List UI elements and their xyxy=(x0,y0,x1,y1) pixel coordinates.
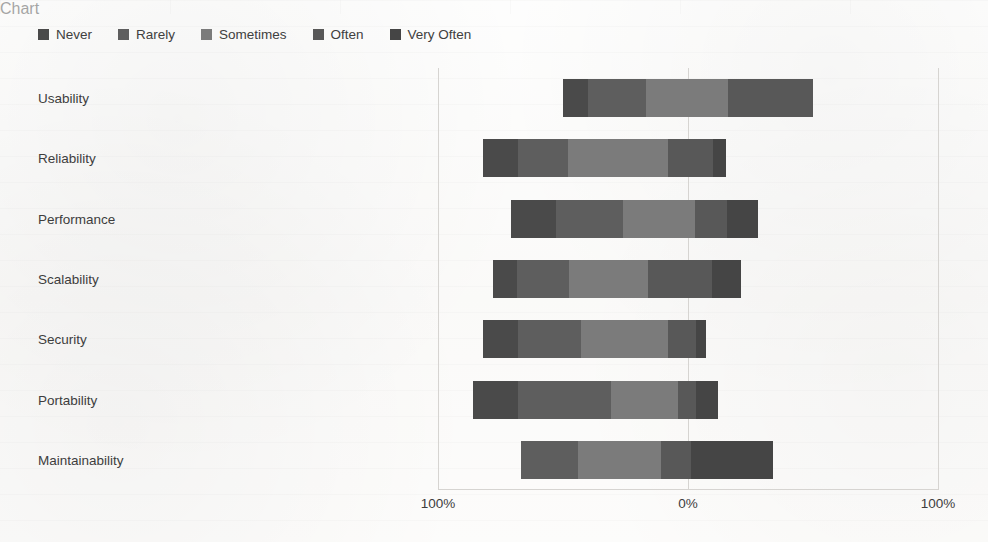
stacked-bar-portability[interactable] xyxy=(473,381,721,419)
legend-item-label: Sometimes xyxy=(219,27,287,42)
legend-swatch-icon xyxy=(38,29,49,40)
category-label-maintainability: Maintainability xyxy=(38,452,124,467)
stacked-bar-maintainability[interactable] xyxy=(521,441,774,479)
gridline-x-2 xyxy=(938,68,939,490)
category-label-security: Security xyxy=(38,332,87,347)
bar-row xyxy=(438,320,938,358)
bar-segment-often[interactable] xyxy=(668,320,696,358)
stacked-bar-performance[interactable] xyxy=(511,200,759,238)
bar-segment-rarely[interactable] xyxy=(518,320,581,358)
stacked-bar-scalability[interactable] xyxy=(493,260,741,298)
bar-segment-rarely[interactable] xyxy=(518,381,611,419)
plot-area xyxy=(438,68,938,490)
stacked-bar-usability[interactable] xyxy=(563,79,813,117)
legend-item-label: Very Often xyxy=(408,27,472,42)
bar-segment-very-often[interactable] xyxy=(696,381,719,419)
bar-segment-very-often[interactable] xyxy=(696,320,706,358)
stacked-bar-reliability[interactable] xyxy=(483,139,731,177)
bar-segment-never[interactable] xyxy=(493,260,517,298)
bar-segment-very-often[interactable] xyxy=(727,200,759,238)
bar-segment-often[interactable] xyxy=(678,381,696,419)
bar-segment-rarely[interactable] xyxy=(521,441,579,479)
x-tick-label-0: 100% xyxy=(421,496,456,511)
legend-swatch-icon xyxy=(313,29,324,40)
bar-segment-never[interactable] xyxy=(483,320,518,358)
legend-swatch-icon xyxy=(118,29,129,40)
bar-segment-never[interactable] xyxy=(563,79,588,117)
bar-segment-often[interactable] xyxy=(648,260,712,298)
bar-row xyxy=(438,441,938,479)
category-label-portability: Portability xyxy=(38,392,97,407)
legend-swatch-icon xyxy=(390,29,401,40)
bar-segment-rarely[interactable] xyxy=(518,139,568,177)
category-label-scalability: Scalability xyxy=(38,272,99,287)
bar-segment-rarely[interactable] xyxy=(517,260,569,298)
bar-segment-never[interactable] xyxy=(483,139,518,177)
likert-diverging-bar-chart: NeverRarelySometimesOftenVery Often Usab… xyxy=(0,0,988,542)
chart-legend: NeverRarelySometimesOftenVery Often xyxy=(38,27,471,42)
bar-row xyxy=(438,381,938,419)
bar-segment-very-often[interactable] xyxy=(713,139,726,177)
bar-segment-rarely[interactable] xyxy=(588,79,646,117)
bar-segment-never[interactable] xyxy=(473,381,518,419)
bar-segment-often[interactable] xyxy=(695,200,727,238)
legend-item-very-often[interactable]: Very Often xyxy=(390,27,472,42)
category-label-reliability: Reliability xyxy=(38,151,96,166)
bar-row xyxy=(438,260,938,298)
legend-item-sometimes[interactable]: Sometimes xyxy=(201,27,287,42)
bar-segment-very-often[interactable] xyxy=(691,441,774,479)
legend-item-label: Never xyxy=(56,27,92,42)
bar-row xyxy=(438,79,938,117)
category-label-usability: Usability xyxy=(38,91,89,106)
bar-segment-sometimes[interactable] xyxy=(581,320,669,358)
bar-segment-sometimes[interactable] xyxy=(578,441,661,479)
bar-row xyxy=(438,139,938,177)
x-tick-label-1: 0% xyxy=(678,496,698,511)
bar-segment-sometimes[interactable] xyxy=(623,200,695,238)
x-tick-label-2: 100% xyxy=(921,496,956,511)
legend-item-label: Often xyxy=(331,27,364,42)
legend-item-never[interactable]: Never xyxy=(38,27,92,42)
legend-item-often[interactable]: Often xyxy=(313,27,364,42)
bar-segment-rarely[interactable] xyxy=(556,200,624,238)
bar-segment-often[interactable] xyxy=(668,139,713,177)
bar-segment-often[interactable] xyxy=(661,441,691,479)
category-label-performance: Performance xyxy=(38,211,115,226)
legend-item-label: Rarely xyxy=(136,27,175,42)
bar-segment-often[interactable] xyxy=(728,79,813,117)
bar-row xyxy=(438,200,938,238)
bar-segment-sometimes[interactable] xyxy=(568,139,668,177)
legend-item-rarely[interactable]: Rarely xyxy=(118,27,175,42)
bar-segment-sometimes[interactable] xyxy=(646,79,729,117)
stacked-bar-security[interactable] xyxy=(483,320,728,358)
legend-swatch-icon xyxy=(201,29,212,40)
bar-segment-very-often[interactable] xyxy=(712,260,741,298)
bar-segment-sometimes[interactable] xyxy=(569,260,648,298)
bar-segment-never[interactable] xyxy=(511,200,556,238)
bar-segment-sometimes[interactable] xyxy=(611,381,679,419)
